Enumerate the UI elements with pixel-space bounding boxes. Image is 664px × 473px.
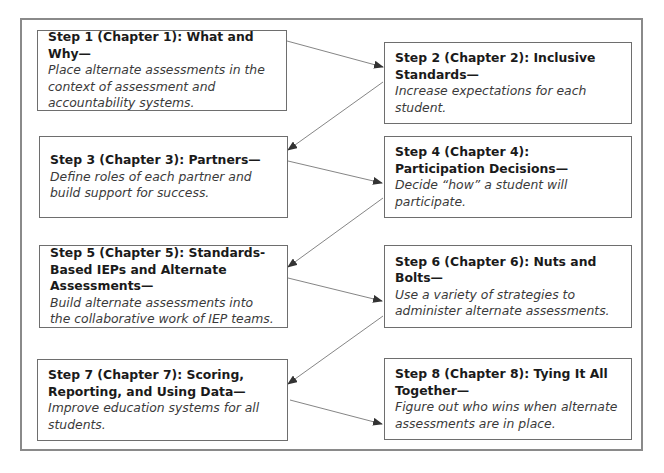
step-2-description: Increase expectations for each student. <box>395 83 621 116</box>
step-6-title: Step 6 (Chapter 6): Nuts and Bolts— <box>395 254 621 287</box>
step-7-box: Step 7 (Chapter 7): Scoring, Reporting, … <box>37 359 288 441</box>
step-1-description: Place alternate assessments in the conte… <box>48 62 276 112</box>
step-6-box: Step 6 (Chapter 6): Nuts and Bolts— Use … <box>384 245 632 328</box>
step-4-box: Step 4 (Chapter 4): Participation Decisi… <box>384 136 632 218</box>
step-6-description: Use a variety of strategies to administe… <box>395 287 621 320</box>
step-8-box: Step 8 (Chapter 8): Tying It All Togethe… <box>384 358 632 440</box>
step-1-title: Step 1 (Chapter 1): What and Why— <box>48 29 276 62</box>
step-4-title: Step 4 (Chapter 4): Participation Decisi… <box>395 144 621 177</box>
step-5-description: Build alternate assessments into the col… <box>50 295 277 328</box>
step-3-description: Define roles of each partner and build s… <box>50 169 277 202</box>
step-5-box: Step 5 (Chapter 5): Standards-Based IEPs… <box>39 245 288 328</box>
step-7-description: Improve education systems for all studen… <box>48 400 277 433</box>
step-8-description: Figure out who wins when alternate asses… <box>395 399 621 432</box>
step-1-box: Step 1 (Chapter 1): What and Why— Place … <box>37 30 287 111</box>
step-8-title: Step 8 (Chapter 8): Tying It All Togethe… <box>395 366 621 399</box>
step-3-title: Step 3 (Chapter 3): Partners— <box>50 152 277 169</box>
step-2-title: Step 2 (Chapter 2): Inclusive Standards— <box>395 50 621 83</box>
step-4-description: Decide “how” a student will participate. <box>395 177 621 210</box>
step-3-box: Step 3 (Chapter 3): Partners— Define rol… <box>39 136 288 218</box>
step-2-box: Step 2 (Chapter 2): Inclusive Standards—… <box>384 42 632 124</box>
step-5-title: Step 5 (Chapter 5): Standards-Based IEPs… <box>50 245 277 295</box>
step-7-title: Step 7 (Chapter 7): Scoring, Reporting, … <box>48 367 277 400</box>
